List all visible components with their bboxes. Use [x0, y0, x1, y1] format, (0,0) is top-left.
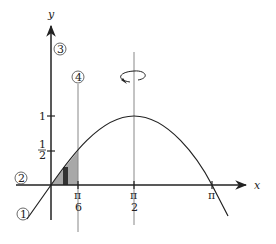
marker-3: 3 [54, 43, 66, 56]
y-tick-half-den: 2 [39, 149, 46, 162]
sine-curve [27, 116, 228, 219]
x-tick-pi: π [208, 189, 215, 202]
y-tick-1: 1 [39, 110, 46, 123]
svg-text:1: 1 [20, 208, 27, 221]
x-tick-pi6-den: 6 [75, 201, 82, 214]
x-tick-pi2-den: 2 [131, 201, 138, 214]
marker-2: 2 [15, 172, 27, 185]
representative-strip [63, 167, 68, 185]
svg-text:3: 3 [57, 43, 64, 56]
svg-text:2: 2 [18, 172, 25, 185]
x-axis-label: x [254, 179, 261, 192]
diagram-svg: y x 1 1 2 π 6 π 2 π 1 2 3 4 [0, 0, 276, 244]
y-axis-label: y [47, 8, 55, 21]
svg-text:4: 4 [75, 71, 82, 84]
diagram: y x 1 1 2 π 6 π 2 π 1 2 3 4 [0, 0, 276, 244]
marker-4: 4 [72, 71, 84, 84]
